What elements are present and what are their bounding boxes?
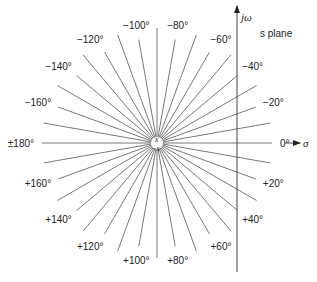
angle-label: +20° [263, 178, 284, 189]
angle-label: −20° [263, 97, 284, 108]
angle-label: −80° [167, 20, 188, 31]
ray-280 [158, 40, 175, 138]
ray-190 [44, 123, 152, 142]
ray-320 [161, 76, 238, 140]
ray-110 [118, 148, 156, 251]
ray-240 [105, 52, 155, 139]
angle-label: +160° [25, 178, 52, 189]
angle-label: −120° [77, 34, 104, 45]
ray-170 [44, 144, 152, 163]
ray-210 [57, 86, 152, 141]
ray-160 [58, 145, 152, 179]
angle-label: +100° [123, 255, 150, 266]
angle-label: 0° [280, 138, 290, 149]
angle-label: −100° [123, 20, 150, 31]
s-plane-diagram: x −s jω σ s plane 0°+20°+40°+60°+80°+100… [0, 0, 317, 282]
real-axis-label: σ [303, 137, 309, 149]
ray-70 [159, 148, 197, 251]
ray-290 [159, 35, 197, 138]
ray-310 [160, 55, 231, 139]
ray-230 [83, 55, 154, 139]
ray-80 [158, 148, 175, 246]
ray-100 [139, 148, 156, 246]
ray-250 [118, 35, 156, 138]
ray-220 [77, 76, 154, 140]
ray-150 [57, 146, 152, 201]
ray-60 [160, 147, 210, 234]
angle-label: +140° [45, 214, 72, 225]
ray-120 [105, 147, 155, 234]
ray-260 [139, 40, 156, 138]
ray-300 [160, 52, 210, 139]
center-top-label: x [154, 135, 159, 144]
angle-label: −60° [211, 34, 232, 45]
ray-130 [83, 147, 154, 231]
ray-20 [162, 145, 256, 179]
plane-label: s plane [260, 28, 293, 39]
imaginary-axis-label: jω [239, 11, 252, 23]
angle-label: +60° [211, 241, 232, 252]
ray-330 [161, 86, 256, 141]
ray-200 [58, 107, 152, 141]
ray-340 [162, 107, 256, 141]
angle-label: ±180° [8, 138, 34, 149]
ray-140 [77, 146, 154, 210]
angle-label: +40° [242, 214, 263, 225]
ray-10 [162, 144, 270, 163]
ray-30 [161, 146, 256, 201]
ray-50 [160, 147, 231, 231]
angle-label: −40° [242, 61, 263, 72]
angle-label: −140° [45, 61, 72, 72]
ray-40 [161, 146, 238, 210]
ray-350 [162, 123, 270, 142]
angle-label: +80° [167, 255, 188, 266]
angle-label: −160° [25, 97, 52, 108]
angle-label: +120° [77, 241, 104, 252]
center-bottom-label: −s [151, 144, 160, 153]
